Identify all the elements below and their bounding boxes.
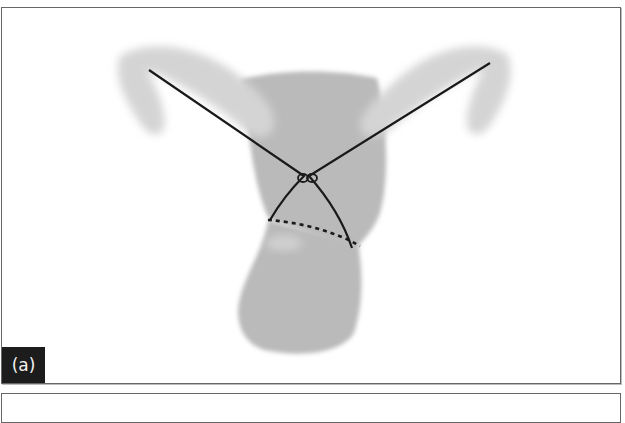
panel-label: (a) <box>2 347 45 383</box>
right-tube <box>360 46 510 137</box>
uterus-suture-illustration <box>2 8 622 385</box>
left-tube <box>118 47 274 138</box>
figure-panel-a: (a) <box>1 7 621 384</box>
panel-label-text: (a) <box>12 355 36 375</box>
cervix <box>238 220 361 354</box>
figure-panel-b-edge <box>1 393 621 423</box>
